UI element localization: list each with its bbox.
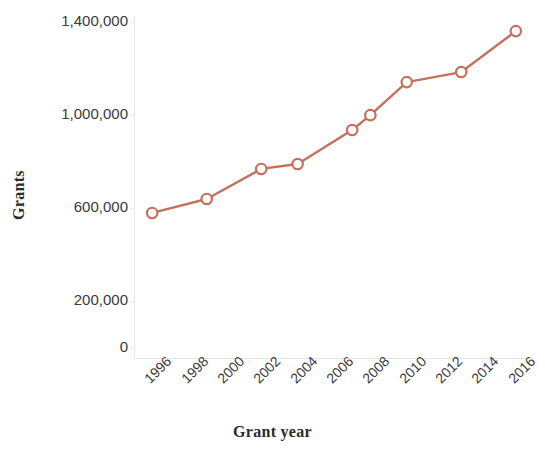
data-point-marker xyxy=(402,77,412,87)
series-line-grants xyxy=(152,31,516,213)
data-point-marker xyxy=(147,208,157,218)
data-point-marker xyxy=(365,110,375,120)
data-point-marker xyxy=(456,67,466,77)
data-point-marker xyxy=(202,194,212,204)
plot-area xyxy=(0,0,545,450)
data-point-marker xyxy=(511,26,521,36)
series-markers-grants xyxy=(147,26,521,218)
data-point-marker xyxy=(347,125,357,135)
line-chart: Grants Grant year 1,400,0001,000,000600,… xyxy=(0,0,545,450)
data-point-marker xyxy=(292,159,302,169)
data-point-marker xyxy=(256,164,266,174)
